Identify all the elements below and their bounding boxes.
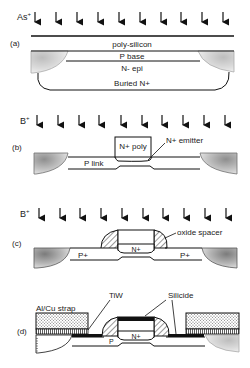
isolation-left-c bbox=[34, 248, 70, 268]
layer-p-base: P base bbox=[120, 52, 145, 61]
layer-buried-n: Buried N+ bbox=[114, 79, 150, 88]
oxide-spacer-left-d bbox=[102, 317, 118, 336]
oxide-spacer-left bbox=[101, 230, 118, 248]
oxide-spacer-right-d bbox=[154, 317, 169, 336]
isolation-left-b bbox=[34, 153, 68, 174]
implant-arrows-c bbox=[39, 208, 226, 218]
panel-b: B+ (b) N+ poly N+ emitter P link bbox=[12, 115, 237, 174]
al-cu-strap-left bbox=[36, 313, 88, 329]
isolation-left-d bbox=[36, 335, 72, 353]
label-n-d: N+ bbox=[131, 333, 140, 340]
label-n-c: N+ bbox=[131, 246, 140, 253]
panel-a: As+ (a) poly-silicon P base N- epi Burie… bbox=[10, 11, 234, 90]
label-p-plus-right: P+ bbox=[180, 251, 190, 260]
implant-arrows-b bbox=[37, 115, 225, 125]
isolation-right-a bbox=[198, 51, 234, 72]
tiw-left bbox=[36, 329, 88, 334]
isolation-right-d bbox=[205, 335, 239, 352]
panel-d: Al/Cu strap TiW Silicide (d) N+ P bbox=[17, 291, 239, 353]
label-tiw: TiW bbox=[109, 291, 123, 300]
process-diagram: As+ (a) poly-silicon P base N- epi Burie… bbox=[0, 0, 250, 368]
label-n-emitter: N+ emitter bbox=[166, 136, 203, 145]
panel-c: B+ (c) N+ oxide spacer P+ P+ bbox=[12, 208, 237, 268]
label-oxide-spacer: oxide spacer bbox=[177, 228, 223, 237]
implant-arrows-a bbox=[35, 12, 223, 22]
isolation-right-b bbox=[200, 153, 237, 174]
label-n-poly: N+ poly bbox=[119, 142, 146, 151]
label-p-plus-left: P+ bbox=[78, 251, 88, 260]
al-cu-strap-right bbox=[186, 313, 239, 329]
label-p-link: P link bbox=[84, 159, 104, 168]
label-p-d: P bbox=[109, 338, 114, 345]
panel-label-a: (a) bbox=[10, 39, 20, 48]
layer-poly-silicon: poly-silicon bbox=[112, 40, 152, 49]
panel-label-c: (c) bbox=[12, 239, 22, 248]
label-silicide: Silicide bbox=[168, 291, 194, 300]
ion-label-c: B+ bbox=[20, 208, 30, 219]
oxide-spacer-right bbox=[154, 230, 167, 248]
panel-label-b: (b) bbox=[12, 143, 22, 152]
isolation-right-c bbox=[202, 248, 237, 268]
isolation-left-a bbox=[31, 51, 68, 73]
layer-n-epi: N- epi bbox=[121, 64, 143, 73]
panel-label-d: (d) bbox=[17, 327, 27, 336]
tiw-right bbox=[186, 329, 239, 334]
silicide-top bbox=[118, 317, 154, 321]
ion-label-b: B+ bbox=[20, 115, 30, 126]
ion-label-a: As+ bbox=[17, 11, 32, 22]
label-al-cu-strap: Al/Cu strap bbox=[36, 304, 76, 313]
